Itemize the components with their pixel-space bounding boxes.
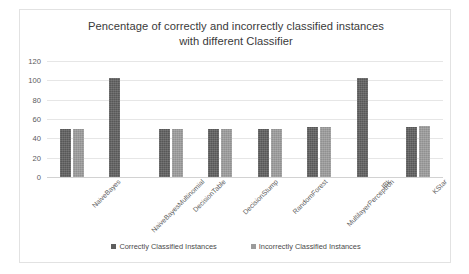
plot-area: [47, 61, 443, 177]
y-axis-tick-label: 20: [33, 153, 41, 162]
bar[interactable]: [159, 129, 170, 177]
x-axis-tick-label: NaiveBayes: [91, 178, 122, 209]
x-axis-tick-label: RandomForest: [291, 178, 328, 215]
bar-group: [208, 61, 232, 177]
bar-group: [406, 61, 430, 177]
bars-layer: [47, 61, 443, 177]
chart-title: Pencentage of correctly and incorrectly …: [20, 19, 452, 49]
bar[interactable]: [271, 129, 282, 177]
bar-group: [60, 61, 84, 177]
legend-item[interactable]: Correctly Classified Instances: [111, 242, 216, 251]
bar[interactable]: [221, 129, 232, 177]
bar-group: [258, 61, 282, 177]
bar-group: [307, 61, 331, 177]
x-axis: NaiveBayesNaiveBayesMultinomialDecisionT…: [47, 178, 443, 240]
bar-group: [159, 61, 183, 177]
y-axis-tick-label: 80: [33, 95, 41, 104]
y-axis-tick-label: 100: [28, 76, 41, 85]
bar[interactable]: [208, 129, 219, 177]
bar-group: [109, 61, 133, 177]
legend-swatch-icon: [111, 244, 116, 249]
y-axis-tick-label: 60: [33, 115, 41, 124]
bar[interactable]: [258, 129, 269, 177]
y-axis: 020406080100120: [20, 61, 44, 177]
bar[interactable]: [307, 127, 318, 177]
bar[interactable]: [109, 78, 120, 177]
bar[interactable]: [320, 127, 331, 177]
y-axis-tick-label: 0: [37, 173, 41, 182]
legend-label: Incorrectly Classified Instances: [259, 242, 361, 251]
x-axis-tick-label: KStar: [431, 178, 448, 195]
y-axis-tick-label: 120: [28, 57, 41, 66]
chart-container: Pencentage of correctly and incorrectly …: [19, 9, 451, 263]
bar[interactable]: [357, 78, 368, 177]
bar[interactable]: [172, 129, 183, 177]
bar[interactable]: [406, 127, 417, 177]
bar[interactable]: [419, 126, 430, 177]
x-axis-tick-label: DecisionStump: [242, 178, 280, 216]
y-axis-tick-label: 40: [33, 134, 41, 143]
bar[interactable]: [60, 129, 71, 177]
legend-swatch-icon: [251, 244, 256, 249]
bar[interactable]: [73, 129, 84, 177]
legend-label: Correctly Classified Instances: [119, 242, 216, 251]
legend-item[interactable]: Incorrectly Classified Instances: [251, 242, 361, 251]
bar-group: [357, 61, 381, 177]
chart-legend: Correctly Classified InstancesIncorrectl…: [20, 242, 452, 251]
